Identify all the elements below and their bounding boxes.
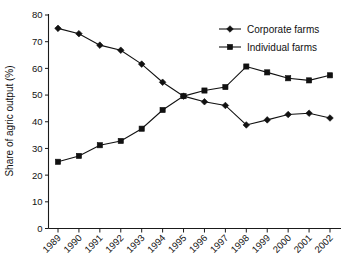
- legend-label: Corporate farms: [247, 24, 319, 35]
- x-tick-label: 1992: [103, 232, 126, 255]
- y-axis-title: Share of agric output (%): [4, 65, 15, 176]
- data-point-square: [265, 70, 270, 75]
- data-point-square: [327, 73, 332, 78]
- data-point-square: [223, 84, 228, 89]
- x-tick-label: 1995: [166, 232, 189, 255]
- x-tick-label: 1991: [82, 232, 105, 255]
- y-tick-label: 70: [32, 36, 43, 47]
- x-tick-label: 1996: [187, 232, 210, 255]
- data-point-diamond: [117, 47, 124, 54]
- data-point-diamond: [227, 26, 234, 33]
- x-tick-label-group: 1989199019911992199319941995199619971998…: [40, 232, 335, 255]
- data-point-diamond: [97, 42, 104, 49]
- legend-item-corporate-farms[interactable]: Corporate farms: [219, 24, 319, 35]
- y-tick-label: 0: [37, 223, 42, 234]
- data-point-square: [306, 78, 311, 83]
- data-point-square: [160, 107, 165, 112]
- data-point-square: [118, 138, 123, 143]
- data-point-diamond: [55, 25, 62, 32]
- data-point-diamond: [306, 110, 313, 117]
- data-point-square: [286, 76, 291, 81]
- chart-legend: Corporate farmsIndividual farms: [219, 24, 319, 53]
- x-tick-label: 1993: [124, 232, 147, 255]
- data-point-square: [202, 88, 207, 93]
- y-tick-label: 40: [32, 116, 43, 127]
- data-point-square: [244, 64, 249, 69]
- series-corporate-farms: [55, 25, 334, 128]
- x-tick-label: 1994: [145, 232, 168, 255]
- data-point-diamond: [285, 111, 292, 118]
- y-tick-label: 20: [32, 170, 43, 181]
- data-point-square: [227, 44, 232, 49]
- legend-item-individual-farms[interactable]: Individual farms: [219, 42, 317, 53]
- x-tick-group: [58, 229, 330, 233]
- x-tick-label: 1999: [249, 232, 272, 255]
- y-tick-label: 10: [32, 196, 43, 207]
- y-tick-label: 80: [32, 9, 43, 20]
- x-tick-label: 2001: [291, 232, 314, 255]
- chart-canvas: 01020304050607080 1989199019911992199319…: [0, 0, 348, 268]
- data-point-square: [181, 94, 186, 99]
- data-point-square: [76, 153, 81, 158]
- data-point-square: [97, 143, 102, 148]
- x-tick-label: 1990: [61, 232, 84, 255]
- data-point-square: [55, 159, 60, 164]
- line-chart: 01020304050607080 1989199019911992199319…: [0, 0, 348, 268]
- data-point-diamond: [76, 30, 83, 37]
- x-tick-label: 1998: [228, 232, 251, 255]
- y-tick-label: 50: [32, 89, 43, 100]
- y-tick-label-group: 01020304050607080: [32, 9, 43, 234]
- data-point-diamond: [327, 115, 334, 122]
- data-point-square: [139, 126, 144, 131]
- data-point-diamond: [264, 117, 271, 124]
- data-point-diamond: [201, 98, 208, 105]
- x-tick-label: 1997: [208, 232, 231, 255]
- x-tick-label: 2002: [312, 232, 335, 255]
- x-tick-label: 2000: [270, 232, 293, 255]
- y-tick-label: 60: [32, 63, 43, 74]
- y-tick-label: 30: [32, 143, 43, 154]
- x-tick-label: 1989: [40, 232, 63, 255]
- legend-label: Individual farms: [247, 42, 317, 53]
